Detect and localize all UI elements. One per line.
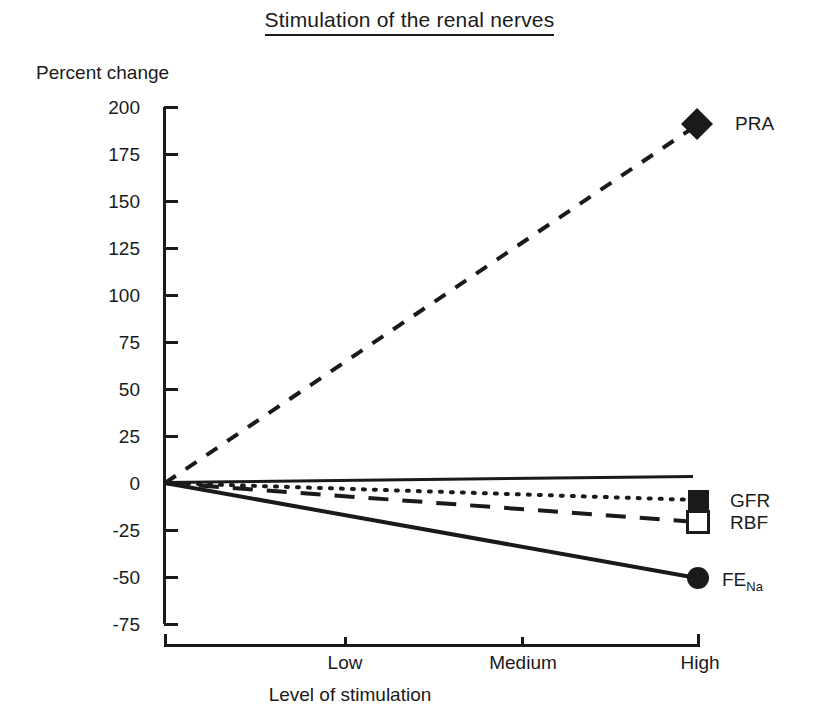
zero-reference-line bbox=[165, 477, 693, 483]
series-marker-rbf bbox=[688, 512, 709, 533]
series-marker-pra bbox=[681, 108, 713, 140]
series-line-pra bbox=[165, 125, 697, 483]
chart-plot-area bbox=[0, 0, 819, 727]
series-line-rbf bbox=[165, 483, 697, 522]
series-marker-fena bbox=[687, 567, 709, 589]
chart-figure: Stimulation of the renal nerves Percent … bbox=[0, 0, 819, 727]
series-marker-gfr bbox=[688, 490, 709, 511]
